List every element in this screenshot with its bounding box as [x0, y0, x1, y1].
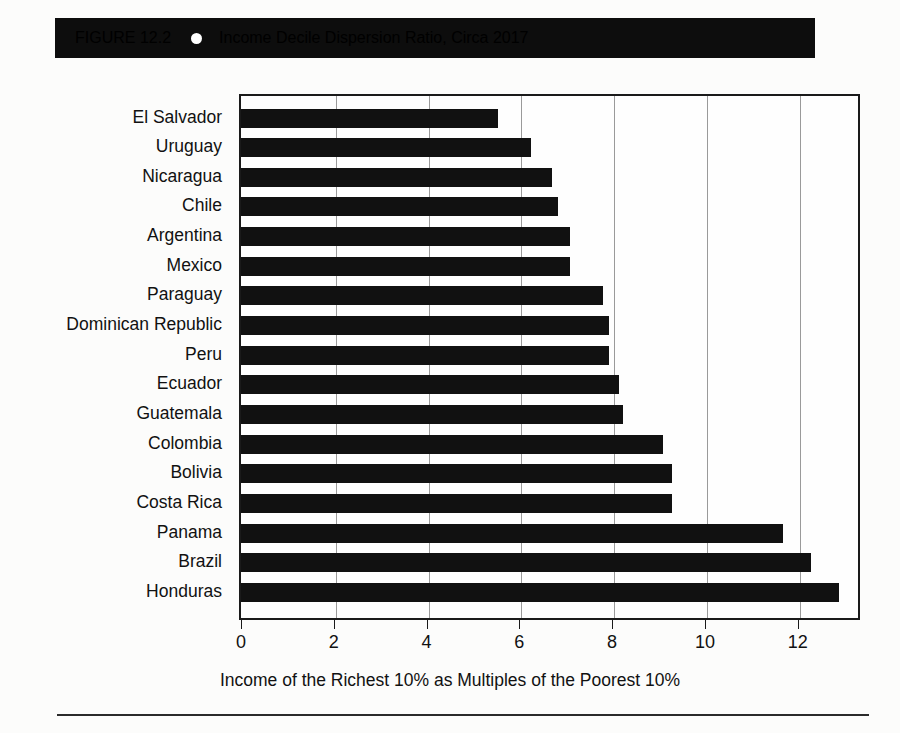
x-tick-mark [798, 620, 799, 629]
y-axis-label: Panama [157, 523, 222, 542]
x-tick-label: 8 [607, 632, 617, 653]
bottom-divider [57, 714, 869, 716]
y-axis-labels: El SalvadorUruguayNicaraguaChileArgentin… [0, 94, 232, 620]
figure-title-text: Income Decile Dispersion Ratio, Circa 20… [219, 29, 528, 47]
y-axis-label: Brazil [178, 552, 222, 571]
bar [241, 257, 570, 276]
bar [241, 524, 783, 543]
bar [241, 316, 609, 335]
x-tick-mark [427, 620, 428, 629]
y-axis-label: Ecuador [157, 374, 222, 393]
bullet-dot-icon [191, 33, 202, 44]
y-axis-label: Nicaragua [142, 167, 222, 186]
bar [241, 583, 839, 602]
figure-page: FIGURE 12.2 Income Decile Dispersion Rat… [0, 0, 900, 733]
x-tick-label: 12 [788, 632, 808, 653]
x-tick-label: 0 [236, 632, 246, 653]
bar [241, 375, 619, 394]
x-axis-ticks: 024681012 [239, 620, 860, 660]
bar [241, 227, 570, 246]
y-axis-label: Costa Rica [136, 493, 222, 512]
chart-plot-area [239, 94, 860, 620]
y-axis-label: El Salvador [133, 108, 223, 127]
bar [241, 494, 672, 513]
x-tick-mark [705, 620, 706, 629]
bar [241, 553, 811, 572]
figure-number-label: FIGURE 12.2 [75, 29, 171, 47]
y-axis-label: Argentina [147, 226, 222, 245]
y-axis-label: Mexico [167, 256, 222, 275]
bar [241, 286, 603, 305]
y-axis-label: Dominican Republic [66, 315, 222, 334]
y-axis-label: Paraguay [147, 285, 222, 304]
y-axis-label: Colombia [148, 434, 222, 453]
bar [241, 346, 609, 365]
x-axis-title: Income of the Richest 10% as Multiples o… [0, 670, 900, 691]
y-axis-label: Peru [185, 345, 222, 364]
x-tick-mark [334, 620, 335, 629]
bar [241, 405, 623, 424]
bar [241, 464, 672, 483]
x-tick-mark [519, 620, 520, 629]
bar [241, 138, 531, 157]
bar [241, 168, 552, 187]
y-axis-label: Honduras [146, 582, 222, 601]
x-tick-label: 6 [514, 632, 524, 653]
bar [241, 197, 558, 216]
gridline [800, 96, 801, 618]
y-axis-label: Uruguay [156, 137, 222, 156]
x-tick-label: 10 [695, 632, 715, 653]
bar [241, 109, 498, 128]
figure-title-bar: FIGURE 12.2 Income Decile Dispersion Rat… [55, 18, 815, 58]
bar [241, 435, 663, 454]
y-axis-label: Bolivia [170, 463, 222, 482]
x-tick-label: 4 [422, 632, 432, 653]
x-tick-mark [612, 620, 613, 629]
y-axis-label: Guatemala [136, 404, 222, 423]
x-tick-mark [241, 620, 242, 629]
y-axis-label: Chile [182, 196, 222, 215]
x-tick-label: 2 [329, 632, 339, 653]
